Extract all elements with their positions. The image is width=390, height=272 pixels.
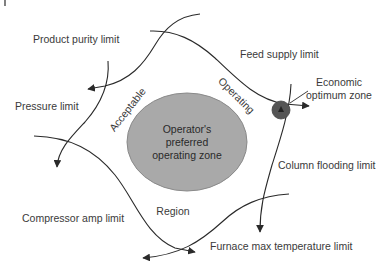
pressure-limit-label: Pressure limit xyxy=(15,100,79,112)
product-purity-limit-curve xyxy=(88,14,200,89)
furnace-max-temp-limit-label: Furnace max temperature limit xyxy=(210,240,352,252)
pressure-limit-curve xyxy=(57,61,108,167)
compressor-amp-limit-label: Compressor amp limit xyxy=(22,212,124,224)
region-label: Region xyxy=(156,205,189,217)
economic-optimum-label-line2: optimum zone xyxy=(306,89,372,101)
column-flooding-limit-label: Column flooding limit xyxy=(278,159,376,171)
preferred-zone-line1: Operator's xyxy=(163,123,212,135)
feed-supply-limit-label: Feed supply limit xyxy=(240,48,319,60)
product-purity-limit-label: Product purity limit xyxy=(33,33,119,45)
operating-region-diagram: Product purity limit Feed supply limit P… xyxy=(0,0,390,272)
economic-optimum-label-line1: Economic xyxy=(316,76,362,88)
preferred-zone-line3: operating zone xyxy=(152,149,222,161)
preferred-zone-line2: preferred xyxy=(166,136,209,148)
